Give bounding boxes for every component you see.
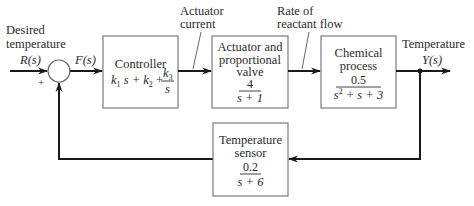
svg-text:s: s <box>165 82 170 96</box>
actuator-numerator: 4 <box>247 77 253 91</box>
process-numerator: 0.5 <box>351 73 366 87</box>
block-diagram: Desired temperature R(s) + F(s) Controll… <box>0 0 474 206</box>
error-signal-label: F(s) <box>74 53 96 67</box>
actuator-title-line1: Actuator and <box>218 40 284 54</box>
plus-sign: + <box>38 76 44 88</box>
reactant-flow-label-line2: reactant flow <box>277 17 343 31</box>
actuator-current-label-line1: Actuator <box>180 4 225 18</box>
sensor-title-line2: sensor <box>235 146 268 160</box>
input-signal-label: R(s) <box>19 53 41 67</box>
actuator-denominator: s + 1 <box>237 91 263 105</box>
actuator-current-leader <box>193 32 201 69</box>
input-label-line1: Desired <box>6 23 46 37</box>
sensor-numerator: 0.2 <box>243 160 258 174</box>
reactant-flow-label-line1: Rate of <box>277 4 314 18</box>
reactant-flow-leader <box>302 32 309 69</box>
output-label: Temperature <box>402 37 465 51</box>
actuator-current-label-line2: current <box>180 17 216 31</box>
output-signal-label: Y(s) <box>422 53 442 67</box>
input-label-line2: temperature <box>6 37 66 51</box>
process-title-line1: Chemical <box>335 46 383 60</box>
controller-title: Controller <box>115 57 167 71</box>
sensor-title-line1: Temperature <box>219 133 282 147</box>
summing-junction <box>48 60 70 82</box>
sensor-denominator: s + 6 <box>238 175 265 189</box>
process-title-line2: process <box>340 59 378 73</box>
